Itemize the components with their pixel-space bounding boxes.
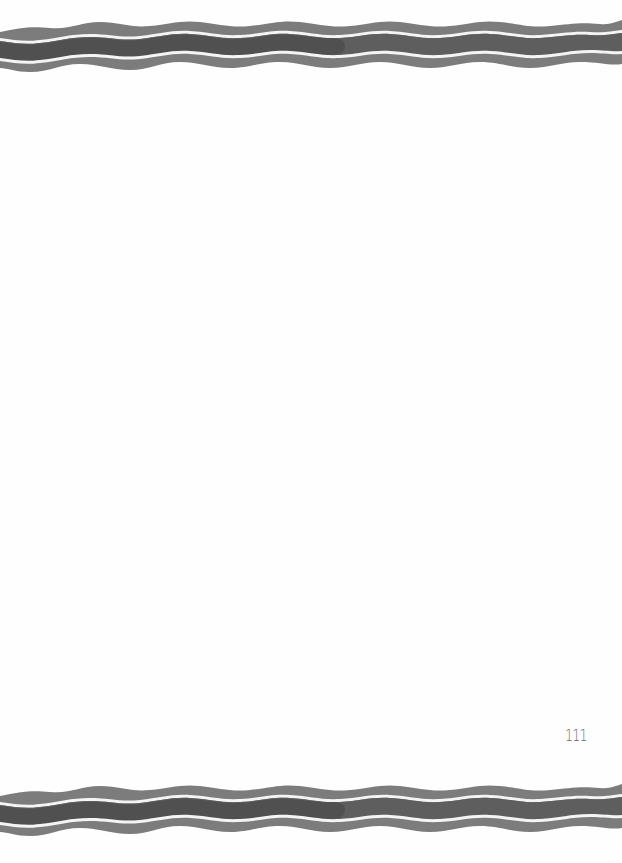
page-body	[0, 90, 622, 770]
top-wavy-border	[0, 18, 622, 78]
page-number: 111	[565, 727, 587, 745]
book-page: 111	[0, 0, 622, 863]
bottom-wavy-border	[0, 782, 622, 842]
